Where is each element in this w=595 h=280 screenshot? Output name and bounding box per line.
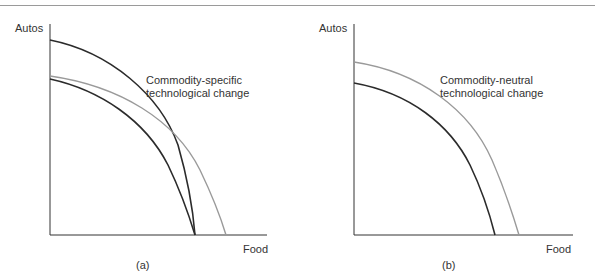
panel-a-y-axis-label: Autos [15,22,43,35]
panel-a-annotation-line1: Commodity-specific [146,74,249,87]
panel-a-x-axis-label: Food [243,243,268,256]
panel-b-annotation: Commodity-neutral technological change [440,74,543,100]
panel-b-annotation-line1: Commodity-neutral [440,74,543,87]
panel-a-curve-inner-dark [50,79,195,235]
panel-a-curve-outer-dark [50,40,195,235]
panel-b-x-axis-label: Food [546,243,571,256]
panel-a-axes [50,24,267,235]
panel-b-annotation-line2: technological change [440,87,543,100]
panel-a-caption: (a) [136,259,149,272]
panel-a-annotation-line2: technological change [146,87,249,100]
panel-b-axes [354,24,573,235]
panel-a-annotation: Commodity-specific technological change [146,74,249,100]
ppf-diagram [0,0,595,280]
panel-b-curve-dark [354,83,495,235]
panel-b-caption: (b) [442,259,455,272]
panel-b-y-axis-label: Autos [319,22,347,35]
